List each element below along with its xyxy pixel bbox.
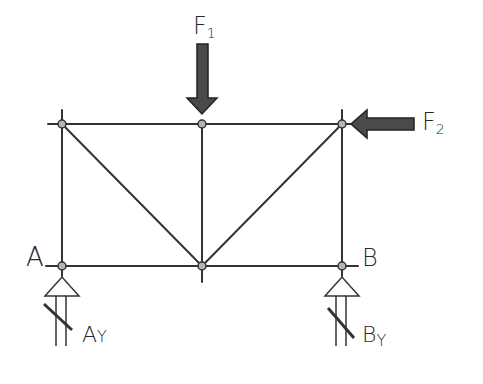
f1-subscript: 1: [207, 25, 216, 41]
by-subscript: Y: [376, 331, 386, 350]
f2-name: F: [422, 108, 436, 136]
right-diagonal: [202, 124, 342, 266]
truss-diagram: F1 F2 A B AY BY: [0, 0, 483, 384]
left-diagonal: [62, 124, 202, 266]
node-bottom-mid: [198, 262, 206, 270]
node-b: [338, 262, 346, 270]
node-top-left: [58, 120, 66, 128]
f2-subscript: 2: [436, 121, 445, 137]
f2-arrow-icon: [351, 110, 414, 138]
ay-name: A: [82, 322, 97, 347]
f1-arrow-icon: [187, 44, 217, 114]
node-b-label: B: [362, 246, 378, 270]
by-label: BY: [362, 324, 386, 346]
node-top-right: [338, 120, 346, 128]
node-a: [58, 262, 66, 270]
ay-reaction-arrow-icon: [44, 277, 79, 346]
ay-subscript: Y: [97, 327, 107, 346]
node-top-mid: [198, 120, 206, 128]
node-a-label: A: [26, 244, 44, 270]
ay-label: AY: [82, 324, 107, 346]
by-name: B: [362, 322, 376, 347]
f1-name: F: [193, 12, 207, 40]
f2-label: F2: [422, 110, 445, 134]
f1-label: F1: [193, 14, 216, 38]
truss-drawing: [0, 0, 483, 384]
truss-members: [46, 110, 358, 282]
by-reaction-arrow-icon: [325, 277, 359, 346]
